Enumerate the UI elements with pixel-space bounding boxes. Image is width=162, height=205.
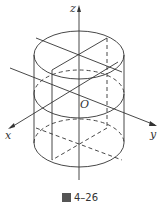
x-axis	[10, 62, 118, 128]
x-label: x	[5, 129, 12, 142]
z-label: z	[69, 2, 76, 15]
cylinder-diagram: z O x y 4–26	[0, 0, 162, 205]
y-label: y	[149, 128, 157, 141]
caption-figure-icon	[62, 193, 71, 202]
bottom-diameter-2	[52, 128, 107, 160]
caption-number: 4–26	[74, 192, 98, 203]
top-diameter-2	[52, 38, 107, 70]
y-axis	[10, 68, 155, 125]
origin-label: O	[80, 98, 89, 111]
z-arrow-icon	[77, 5, 81, 12]
y-arrow-icon	[149, 121, 157, 126]
